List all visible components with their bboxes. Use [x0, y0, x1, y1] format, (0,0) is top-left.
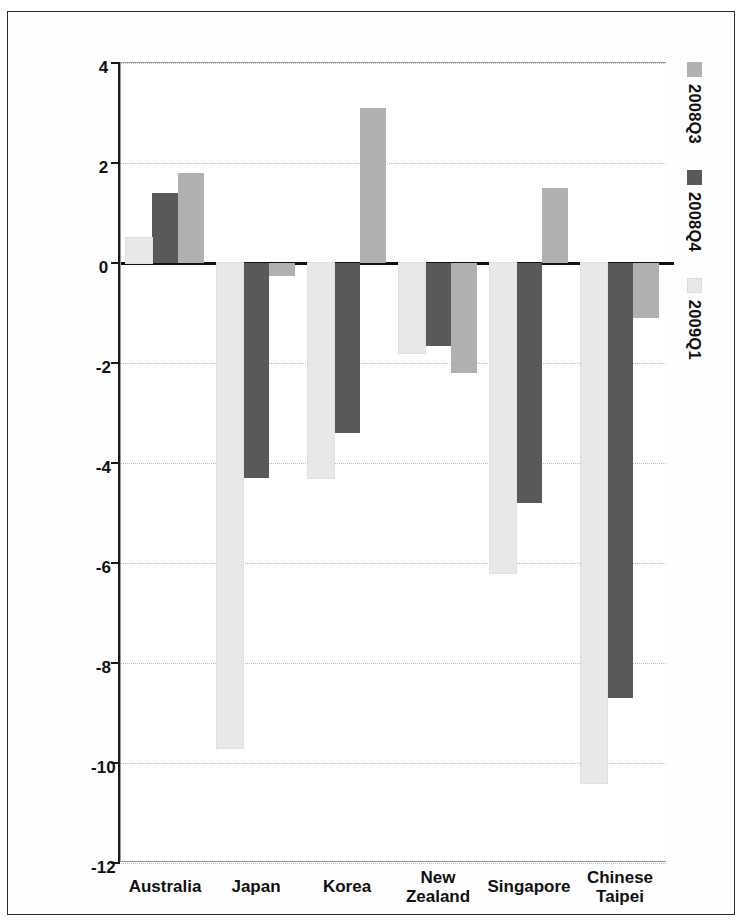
bar-chinese-taipei-2009q1 [582, 263, 608, 783]
axis-tick [111, 462, 120, 464]
bar-australia-2009q1 [127, 238, 153, 263]
legend-swatch-2008q4 [687, 170, 702, 185]
axis-tick-label: -12 [91, 858, 116, 878]
rotated-figure-wrapper: 2008Q3 2008Q4 2009Q1 420-2-4-6-8-10-12 [0, 0, 744, 924]
axis-tick-label: -8 [96, 658, 111, 678]
plot-inner [121, 63, 666, 861]
bar-korea-2009q1 [309, 263, 335, 478]
axis-tick [111, 162, 120, 164]
axis-tick [111, 662, 120, 664]
chart-legend: 2008Q3 2008Q4 2009Q1 [685, 62, 704, 360]
axis-tick-label: 0 [99, 258, 108, 278]
bar-new-zealand-2009q1 [400, 263, 426, 353]
bar-korea-2008q3 [361, 108, 387, 263]
bar-singapore-2008q4 [517, 263, 543, 503]
legend-swatch-2008q3 [687, 62, 702, 77]
legend-item-2008q3: 2008Q3 [685, 62, 704, 144]
legend-label-2009q1: 2009Q1 [685, 300, 704, 360]
bar-chart: 2008Q3 2008Q4 2009Q1 420-2-4-6-8-10-12 [22, 20, 722, 904]
axis-tick-label: 4 [99, 58, 108, 78]
bar-singapore-2009q1 [491, 263, 517, 573]
bar-new-zealand-2008q3 [452, 263, 478, 373]
axis-tick-label: 2 [99, 158, 108, 178]
bar-new-zealand-2008q4 [426, 263, 452, 346]
axis-tick-label: -6 [96, 558, 111, 578]
category-label-korea: Korea [323, 877, 371, 896]
bar-chinese-taipei-2008q3 [634, 263, 660, 318]
gridline [121, 163, 666, 165]
category-label-japan: Japan [232, 877, 281, 896]
bar-japan-2009q1 [218, 263, 244, 748]
axis-tick-label: -10 [91, 758, 116, 778]
legend-label-2008q3: 2008Q3 [685, 84, 704, 144]
category-label-new-zealand: New Zealand [406, 868, 470, 906]
chart-page: 2008Q3 2008Q4 2009Q1 420-2-4-6-8-10-12 [0, 0, 744, 924]
axis-tick [111, 62, 120, 64]
bar-singapore-2008q3 [543, 188, 569, 263]
bar-chinese-taipei-2008q4 [608, 263, 634, 698]
category-label-singapore: Singapore [488, 877, 571, 896]
bar-australia-2008q4 [153, 193, 179, 263]
plot-area [120, 62, 666, 862]
axis-tick [111, 562, 120, 564]
bar-japan-2008q3 [270, 263, 296, 276]
gridline [121, 863, 666, 865]
category-axis: AustraliaJapanKoreaNew ZealandSingaporeC… [120, 870, 666, 904]
bar-korea-2008q4 [335, 263, 361, 433]
bar-australia-2008q3 [179, 173, 205, 263]
legend-swatch-2009q1 [687, 278, 702, 293]
category-label-australia: Australia [129, 877, 202, 896]
axis-tick-label: -2 [96, 358, 111, 378]
category-label-chinese-taipei: Chinese Taipei [587, 868, 653, 906]
legend-label-2008q4: 2008Q4 [685, 192, 704, 252]
axis-tick-label: -4 [96, 458, 111, 478]
axis-tick [111, 362, 120, 364]
legend-item-2008q4: 2008Q4 [685, 170, 704, 252]
value-axis: 420-2-4-6-8-10-12 [30, 62, 120, 862]
legend-item-2009q1: 2009Q1 [685, 278, 704, 360]
bar-japan-2008q4 [244, 263, 270, 478]
gridline [121, 63, 666, 65]
axis-tick [111, 262, 120, 264]
